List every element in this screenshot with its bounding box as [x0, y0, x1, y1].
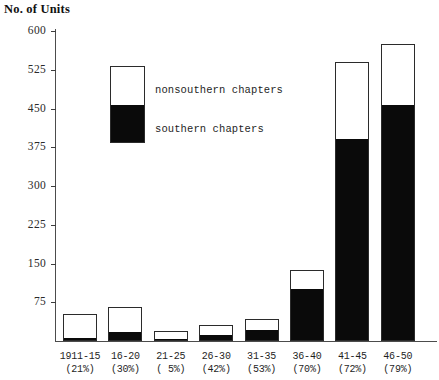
y-axis-tick: [51, 147, 56, 148]
bar-26-30: [199, 325, 233, 341]
bar-segment-southern: [64, 338, 96, 340]
bar-segment-southern: [336, 139, 368, 341]
y-axis-tick-label: 600: [2, 24, 46, 36]
y-axis-tick: [51, 31, 56, 32]
y-axis-tick: [51, 264, 56, 265]
y-axis-tick-label: 300: [2, 179, 46, 191]
chart-figure: No. of Units 75150225300375450525600 191…: [0, 0, 439, 380]
bar-16-20: [108, 307, 142, 341]
y-axis-tick-label: 375: [2, 140, 46, 152]
bar-1911-15: [63, 314, 97, 341]
bar-31-35: [245, 319, 279, 341]
x-axis-line: [55, 341, 437, 342]
y-axis-tick: [51, 186, 56, 187]
legend-label-southern: southern chapters: [155, 123, 264, 135]
y-axis-tick: [51, 70, 56, 71]
y-axis-tick-label: 450: [2, 102, 46, 114]
bar-46-50: [381, 44, 415, 341]
bar-segment-southern: [155, 339, 187, 340]
bar-segment-southern: [109, 332, 141, 340]
legend-label-nonsouthern: nonsouthern chapters: [155, 84, 283, 96]
y-axis-tick: [51, 225, 56, 226]
y-axis-tick: [51, 302, 56, 303]
y-axis-tick-label: 225: [2, 218, 46, 230]
x-axis-label-range: 46-50: [366, 350, 430, 363]
bar-41-45: [335, 62, 369, 341]
plot-area: 75150225300375450525600 1911-15(21%)16-2…: [0, 0, 439, 380]
bar-segment-southern: [382, 105, 414, 340]
y-axis-tick-label: 525: [2, 63, 46, 75]
x-axis-label-percent: (79%): [366, 363, 430, 376]
legend-swatch: [110, 66, 145, 143]
bar-segment-southern: [200, 335, 232, 340]
y-axis-tick-label: 75: [2, 295, 46, 307]
bar-36-40: [290, 270, 324, 341]
y-axis-tick: [51, 109, 56, 110]
bar-segment-southern: [246, 330, 278, 340]
x-axis-label-46-50: 46-50(79%): [366, 350, 430, 376]
legend-swatch-southern: [111, 105, 144, 143]
y-axis-tick-label: 150: [2, 257, 46, 269]
bar-segment-southern: [291, 289, 323, 340]
bar-21-25: [154, 331, 188, 341]
